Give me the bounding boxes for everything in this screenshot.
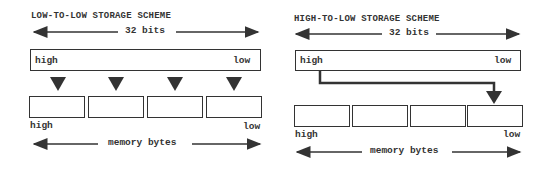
right-register-low-label: low — [494, 55, 511, 66]
left-memory-label: memory bytes — [105, 137, 179, 148]
left-width-label: 32 bits — [122, 25, 168, 36]
left-byte-box-4 — [206, 96, 262, 118]
left-register-box — [30, 49, 261, 71]
right-bytes-low-label: low — [503, 129, 520, 140]
left-register-low-label: low — [233, 55, 250, 66]
high-to-low-connector — [320, 70, 494, 93]
left-byte-box-3 — [147, 96, 203, 118]
left-bytes-high-label: high — [30, 120, 53, 131]
right-byte-box-1 — [294, 105, 350, 127]
left-byte-box-2 — [88, 96, 144, 118]
left-scheme-title: LOW-TO-LOW STORAGE SCHEME — [31, 11, 171, 21]
down-arrow-icon — [486, 91, 502, 104]
right-width-label: 32 bits — [386, 27, 432, 38]
down-arrow-icon — [167, 77, 183, 91]
right-byte-box-4 — [467, 105, 523, 127]
right-scheme-title: HIGH-TO-LOW STORAGE SCHEME — [294, 14, 440, 24]
right-bytes-high-label: high — [295, 129, 318, 140]
left-down-arrows — [50, 77, 242, 91]
left-register-high-label: high — [35, 55, 58, 66]
right-byte-box-3 — [410, 105, 466, 127]
down-arrow-icon — [50, 77, 66, 91]
right-register-high-label: high — [300, 55, 323, 66]
right-byte-box-2 — [352, 105, 408, 127]
diagram-lines — [0, 0, 547, 169]
down-arrow-icon — [108, 77, 124, 91]
left-byte-box-1 — [29, 96, 85, 118]
right-register-box — [295, 50, 521, 71]
right-memory-label: memory bytes — [367, 145, 441, 156]
down-arrow-icon — [226, 77, 242, 91]
left-bytes-low-label: low — [243, 121, 260, 132]
